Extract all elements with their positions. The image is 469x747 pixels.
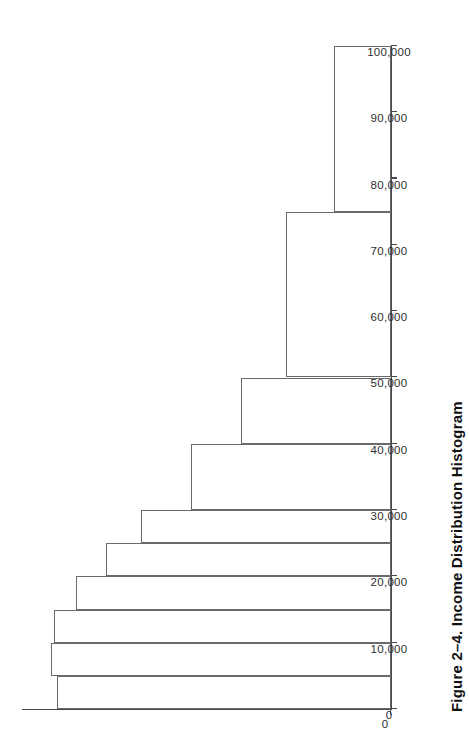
figure-page: 010,00020,00030,00040,00050,00060,00070,… [0, 0, 469, 747]
y-axis-tick-label: 0 [382, 718, 388, 730]
x-axis-tick-label: 20,000 [371, 576, 408, 588]
histogram-bar [54, 610, 391, 643]
histogram-bar [141, 510, 391, 543]
x-axis-tick-label: 70,000 [371, 245, 408, 257]
figure-wrapper: 010,00020,00030,00040,00050,00060,00070,… [0, 0, 469, 747]
y-axis-tick [390, 709, 391, 715]
histogram-bar [286, 212, 391, 378]
histogram-bar [57, 676, 391, 709]
histogram-bar [191, 444, 391, 510]
histogram-bar [106, 543, 391, 576]
histogram-bar [76, 576, 391, 609]
x-axis-tick-label: 40,000 [371, 444, 408, 456]
histogram-bar [241, 378, 391, 444]
rotated-figure-container: 010,00020,00030,00040,00050,00060,00070,… [0, 0, 469, 747]
x-axis-tick-label: 90,000 [371, 112, 408, 124]
x-axis-tick-label: 10,000 [371, 643, 408, 655]
histogram-bars [22, 46, 391, 709]
plot-area: 010,00020,00030,00040,00050,00060,00070,… [22, 46, 392, 710]
x-axis-tick-label: 30,000 [371, 510, 408, 522]
x-axis-tick-label: 50,000 [371, 378, 408, 390]
x-axis-tick-label: 80,000 [371, 179, 408, 191]
x-axis-tick-label: 60,000 [371, 311, 408, 323]
x-axis-tick-label: 100,000 [367, 46, 411, 58]
histogram-bar [51, 643, 391, 676]
figure-caption: Figure 2–4. Income Distribution Histogra… [448, 401, 465, 712]
